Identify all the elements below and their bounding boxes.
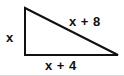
side-label-hypotenuse: x + 8 <box>69 15 101 28</box>
triangle-figure: x x + 8 x + 4 <box>0 0 124 76</box>
side-label-left-leg: x <box>6 31 14 44</box>
side-label-base: x + 4 <box>45 59 77 72</box>
bottom-edge-divider <box>0 75 124 76</box>
